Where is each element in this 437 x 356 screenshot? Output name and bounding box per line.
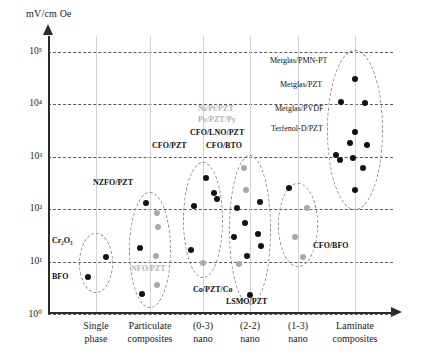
data-point: [352, 129, 358, 135]
y-tick-label: 10²: [8, 203, 42, 213]
annotation-label: Metglas/PVDF: [275, 104, 323, 113]
data-point: [200, 260, 206, 266]
data-point: [214, 196, 220, 202]
annotation-label: BFO: [52, 272, 68, 281]
annotation-label: NZFO/PZT: [93, 178, 133, 187]
cluster-ellipse: [229, 155, 271, 305]
data-point: [191, 203, 197, 209]
cluster-ellipse: [79, 233, 113, 293]
data-point: [257, 199, 263, 205]
y-tick-label: 10¹: [8, 256, 42, 266]
gridline-y-1: [48, 314, 393, 315]
x-tick-label-5: Laminatecomposites: [305, 320, 405, 345]
y-axis-title: mV/cm Oe: [26, 8, 72, 19]
annotation-label: CFO/PZT: [152, 141, 187, 150]
data-point: [236, 261, 242, 267]
y-tick-label: 10⁴: [8, 98, 42, 108]
data-point: [258, 243, 264, 249]
annotation-label: Metglas/PZT: [280, 80, 322, 89]
chart-container: mV/cm Oe 10⁰10¹10²10³10⁴10⁵ SinglephaseP…: [0, 0, 437, 356]
data-point: [364, 142, 370, 148]
annotation-label: Py/PZT/Py: [198, 115, 236, 124]
annotation-label: Ni/Pt/PZT: [198, 104, 234, 113]
annotation-label: Co/PZT/Co: [193, 285, 233, 294]
data-point: [153, 253, 159, 259]
data-point: [292, 234, 298, 240]
data-point: [203, 175, 209, 181]
annotation-label: CFO/LNO/PZT: [190, 128, 244, 137]
annotation-label: CFO/BTO: [206, 141, 242, 150]
cluster-ellipse: [129, 192, 171, 308]
annotation-label: Cr₂O₃: [52, 236, 72, 245]
y-tick-label: 10⁰: [8, 308, 42, 319]
annotation-label: LSMO/PZT: [226, 297, 267, 306]
data-point: [242, 220, 248, 226]
annotation-label: NFO/PZT: [131, 264, 166, 273]
data-point: [154, 210, 160, 216]
data-point: [188, 247, 194, 253]
annotation-label: Terfenol-D/PZT: [271, 124, 323, 133]
cluster-ellipse: [278, 183, 318, 267]
y-tick-label: 10³: [8, 151, 42, 161]
data-point: [350, 155, 356, 161]
data-point: [231, 234, 237, 240]
annotation-label: CFO/BFO: [313, 241, 349, 250]
data-point: [244, 253, 250, 259]
y-axis-arrow-icon: [43, 24, 53, 35]
y-tick-label: 10⁵: [8, 46, 42, 56]
annotation-label: Metglas/PMN-PT: [270, 56, 327, 65]
